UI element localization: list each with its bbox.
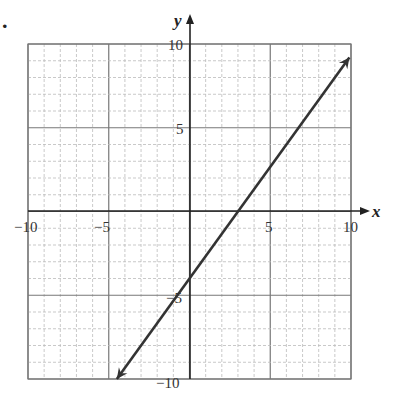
coordinate-plane-chart: . x y −10 −5 5 10 10 5 −5 −10 bbox=[0, 0, 395, 405]
y-axis-arrow-icon bbox=[186, 14, 194, 24]
x-axis-label: x bbox=[371, 202, 381, 221]
y-axis-label: y bbox=[172, 11, 182, 30]
x-tick-neg5: −5 bbox=[94, 219, 110, 235]
plotted-line bbox=[117, 57, 350, 379]
x-tick-neg10: −10 bbox=[14, 219, 37, 235]
line-series bbox=[117, 57, 350, 379]
x-axis-arrow-icon bbox=[360, 207, 370, 215]
y-tick-5: 5 bbox=[176, 121, 184, 137]
x-tick-10: 10 bbox=[343, 219, 358, 235]
y-tick-neg10: −10 bbox=[156, 375, 179, 391]
problem-marker: . bbox=[2, 8, 8, 33]
y-tick-10: 10 bbox=[168, 37, 183, 53]
x-tick-5: 5 bbox=[265, 219, 273, 235]
